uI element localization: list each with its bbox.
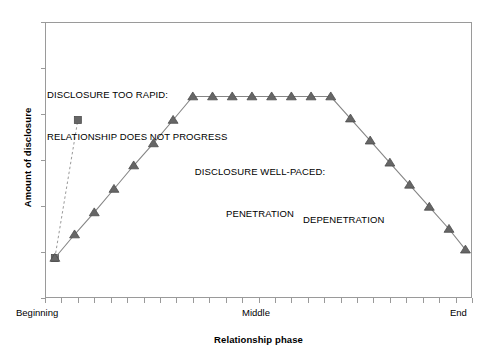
x-tick-label-end: End: [450, 307, 467, 318]
y-axis-title: Amount of disclosure: [22, 68, 33, 248]
chart-figure: Amount of disclosure Relationship phase …: [0, 0, 495, 363]
annotation-rapid-line-1: DISCLOSURE TOO RAPID:: [47, 88, 227, 102]
x-tick-label-middle: Middle: [242, 307, 270, 318]
annotation-depenetration: DEPENETRATION: [303, 213, 384, 227]
annotation-wellpaced-line-1: DISCLOSURE WELL-PACED:: [174, 165, 346, 179]
x-tick-label-beginning: Beginning: [16, 307, 58, 318]
x-axis-title: Relationship phase: [45, 334, 472, 345]
annotation-disclosure-well-paced: DISCLOSURE WELL-PACED: PENETRATION: [174, 137, 346, 249]
